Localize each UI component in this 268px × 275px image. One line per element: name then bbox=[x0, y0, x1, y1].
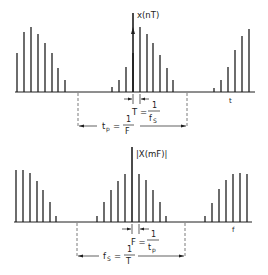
F-arrowhead-right-icon bbox=[140, 228, 144, 231]
bottom-spectrum-bars bbox=[16, 147, 247, 222]
T-arrowhead-right-icon bbox=[141, 98, 145, 101]
fs-arrowhead-left-icon bbox=[78, 255, 83, 258]
sampling-diagram: x(nT) t T = 1 f S t p = 1 bbox=[0, 0, 268, 275]
fs-equals: = bbox=[114, 251, 121, 261]
tp-denominator: F bbox=[125, 127, 130, 136]
tp-arrowhead-left-icon bbox=[79, 125, 84, 128]
tp-arrowhead-right-icon bbox=[181, 125, 186, 128]
top-plot: x(nT) t T = 1 f S t p = 1 bbox=[15, 10, 255, 136]
tp-numerator: 1 bbox=[126, 115, 131, 124]
fs-label-sub: S bbox=[107, 255, 111, 262]
T-numerator: 1 bbox=[152, 101, 157, 110]
F-equation-label: F = bbox=[131, 237, 146, 247]
top-axis-arrow-icon bbox=[131, 27, 135, 34]
bottom-f-axis-label: f bbox=[232, 226, 235, 234]
T-arrowhead-left-icon bbox=[128, 98, 132, 101]
bottom-axis-label: |X(mF)| bbox=[136, 149, 167, 159]
diagram-canvas: x(nT) t T = 1 f S t p = 1 bbox=[0, 0, 268, 275]
fs-numerator: 1 bbox=[127, 245, 132, 254]
F-denominator: t bbox=[148, 243, 151, 252]
tp-label-sub: p bbox=[106, 125, 110, 133]
F-numerator: 1 bbox=[151, 230, 156, 239]
fs-denominator: T bbox=[125, 257, 131, 266]
T-denominator: f bbox=[149, 114, 152, 123]
bottom-plot: |X(mF)| f F = 1 t p f S = 1 bbox=[14, 147, 252, 266]
top-t-axis-label: t bbox=[229, 97, 232, 105]
T-equation-label: T = bbox=[131, 107, 147, 117]
fs-arrowhead-right-icon bbox=[179, 255, 184, 258]
tp-equals: = bbox=[113, 121, 120, 131]
F-arrowhead-left-icon bbox=[127, 228, 131, 231]
top-axis-label: x(nT) bbox=[137, 10, 159, 20]
T-denominator-sub: S bbox=[153, 117, 157, 124]
F-denominator-sub: p bbox=[152, 246, 156, 254]
